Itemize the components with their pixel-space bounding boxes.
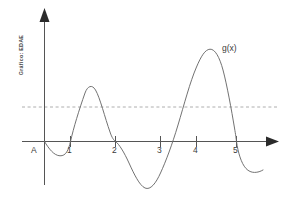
curve-label-gx: g(x) <box>222 43 237 53</box>
origin-label-a: A <box>31 145 37 155</box>
x-tick-label-2: 2 <box>112 145 117 155</box>
function-curve-gx <box>45 49 264 188</box>
plot-svg <box>0 0 288 199</box>
x-tick-label-4: 4 <box>193 145 198 155</box>
y-axis-arrowhead <box>40 8 50 22</box>
chart-canvas: Gráfico: EDAE A 1 2 3 4 5 g(x) <box>0 0 288 199</box>
x-axis-arrowhead <box>266 137 279 147</box>
x-tick-label-5: 5 <box>233 145 238 155</box>
x-tick-label-3: 3 <box>157 145 162 155</box>
x-tick-label-1: 1 <box>67 145 72 155</box>
